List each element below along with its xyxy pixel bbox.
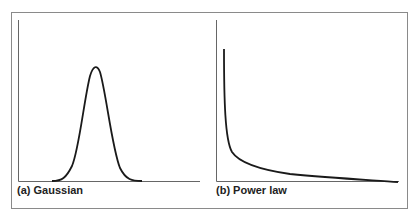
gaussian-curve [52, 67, 142, 181]
power-law-curve [224, 49, 398, 182]
panel-b-label: (b) Power law [216, 184, 287, 196]
panel-b-axes [217, 20, 400, 182]
panel-a-label: (a) Gaussian [17, 184, 83, 196]
panel-a-axes [19, 20, 201, 182]
